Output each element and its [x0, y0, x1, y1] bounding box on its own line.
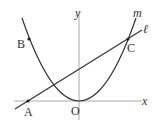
label-x-axis: x [141, 94, 148, 108]
label-a: A [24, 105, 33, 119]
label-origin: O [71, 104, 80, 118]
label-l: ℓ [143, 22, 148, 36]
label-c: C [127, 41, 135, 55]
label-b: B [17, 37, 25, 51]
point-a [26, 99, 29, 102]
point-b [27, 37, 30, 40]
label-m: m [133, 6, 142, 20]
graph-figure: A B C O x y m ℓ [0, 0, 158, 128]
label-y-axis: y [74, 6, 81, 20]
